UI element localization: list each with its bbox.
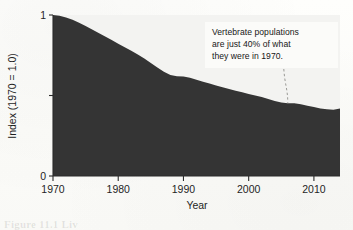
x-tick-label: 1980 bbox=[107, 183, 131, 195]
vertebrate-population-callout: Vertebrate populations are just 40% of w… bbox=[205, 22, 338, 68]
x-axis-title: Year bbox=[186, 199, 208, 211]
figure-page-background: 01 19701980199020002010 Index (1970 = 1.… bbox=[0, 0, 353, 230]
y-axis-title: Index (1970 = 1.0) bbox=[6, 53, 18, 139]
x-tick-label: 1990 bbox=[172, 183, 196, 195]
y-axis-ticks: 01 bbox=[40, 9, 53, 182]
annotation-line-1: Vertebrate populations bbox=[212, 26, 332, 38]
y-tick-label: 0 bbox=[40, 170, 46, 182]
x-axis-ticks: 19701980199020002010 bbox=[41, 176, 325, 195]
annotation-line-3: they were in 1970. bbox=[212, 50, 332, 62]
x-tick-label: 1970 bbox=[41, 183, 65, 195]
y-tick-label: 1 bbox=[40, 9, 46, 21]
living-planet-index-figure: 01 19701980199020002010 Index (1970 = 1.… bbox=[0, 0, 353, 230]
x-tick-label: 2010 bbox=[302, 183, 326, 195]
x-tick-label: 2000 bbox=[237, 183, 261, 195]
figure-caption-remnant: Figure 11.1 Liv bbox=[4, 218, 78, 230]
annotation-line-2: are just 40% of what bbox=[212, 38, 332, 50]
